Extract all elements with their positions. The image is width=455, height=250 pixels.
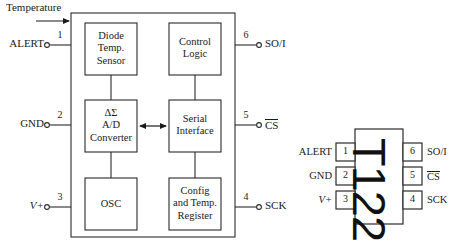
package-pin-number-1: 1 xyxy=(336,146,355,157)
block-label-line: Logic xyxy=(169,48,221,60)
block-label-line: Serial xyxy=(167,113,223,125)
pin-terminal-sck xyxy=(257,205,262,210)
block-label-line: Config xyxy=(165,185,225,197)
block-label-line: Register xyxy=(165,210,225,222)
package-pin-label-cs-text: CS xyxy=(427,171,440,183)
pin-number-6: 6 xyxy=(238,30,254,41)
block-label-line: Sensor xyxy=(85,55,137,67)
block-label-line: and Temp. xyxy=(165,197,225,209)
temperature-input-label: Temperature xyxy=(6,2,61,14)
package-pin-label-gnd: GND xyxy=(280,170,332,181)
block-label-line: A/D xyxy=(83,119,139,131)
pin-label-vplus: V+ xyxy=(0,200,44,212)
block-label-diode-temp-sensor: Diode Temp. Sensor xyxy=(85,30,137,67)
pin-label-cs: CS xyxy=(265,119,278,132)
technical-diagram: Temperature ALERT GND V+ 1 2 3 6 5 4 SO/… xyxy=(0,0,455,250)
pin-terminal-so-i xyxy=(257,43,262,48)
package-pin-label-sck: SCK xyxy=(427,194,447,205)
package-pin-label-cs: CS xyxy=(427,171,440,183)
pin-number-5: 5 xyxy=(238,110,254,121)
pin-label-so-i: SO/I xyxy=(265,38,286,50)
pin-label-alert: ALERT xyxy=(0,38,44,50)
block-label-osc: OSC xyxy=(85,198,137,210)
block-label-ad-converter: ΔΣ A/D Converter xyxy=(83,107,139,144)
package-pin-number-6: 6 xyxy=(403,146,422,157)
pin-number-4: 4 xyxy=(238,192,254,203)
block-label-line: Converter xyxy=(83,132,139,144)
block-label-line: Control xyxy=(169,36,221,48)
pin-label-gnd: GND xyxy=(0,118,44,130)
pin-number-2: 2 xyxy=(52,110,68,121)
block-label-serial-interface: Serial Interface xyxy=(167,113,223,138)
pin-terminal-cs xyxy=(257,123,262,128)
block-label-line: Interface xyxy=(167,125,223,137)
pin-number-3: 3 xyxy=(52,192,68,203)
package-pin-label-vplus: V+ xyxy=(280,194,332,205)
block-label-control-logic: Control Logic xyxy=(169,36,221,61)
block-label-line: OSC xyxy=(85,198,137,210)
package-pin-label-alert: ALERT xyxy=(280,146,332,157)
block-label-line: Temp. xyxy=(85,42,137,54)
pin-label-cs-text: CS xyxy=(265,119,278,131)
package-pin-label-so-i: SO/I xyxy=(427,146,447,157)
package-pin-number-2: 2 xyxy=(336,170,355,181)
block-label-config-temp-register: Config and Temp. Register xyxy=(165,185,225,222)
pin-terminal-vplus xyxy=(45,205,50,210)
pin-number-1: 1 xyxy=(52,30,68,41)
package-pin-number-5: 5 xyxy=(403,170,422,181)
block-label-line: ΔΣ xyxy=(83,107,139,119)
pin-terminal-alert xyxy=(45,43,50,48)
pin-terminal-gnd xyxy=(45,123,50,128)
package-pin-number-4: 4 xyxy=(403,194,422,205)
block-label-line: Diode xyxy=(85,30,137,42)
package-pin-number-3: 3 xyxy=(336,194,355,205)
